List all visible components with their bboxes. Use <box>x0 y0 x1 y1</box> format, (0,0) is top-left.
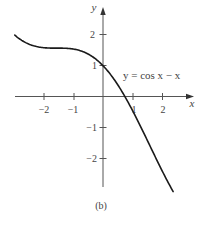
chart-canvas: −2 −1 1 2 2 1 −1 −2 y x y = cos x − x (b… <box>0 0 202 226</box>
equation-label: y = cos x − x <box>123 69 181 81</box>
y-tick-label: 2 <box>90 29 95 40</box>
y-tick-label: 1 <box>92 60 97 71</box>
x-tick-label: −2 <box>39 104 50 115</box>
figure-caption: (b) <box>95 200 107 212</box>
y-tick-label: −2 <box>86 153 97 164</box>
x-tick-label: −1 <box>68 104 79 115</box>
x-tick-label: 2 <box>161 104 166 115</box>
y-axis-label: y <box>91 1 97 13</box>
x-axis-label: x <box>189 97 195 109</box>
y-tick-label: −1 <box>86 122 97 133</box>
y-axis-arrow-icon <box>100 7 105 15</box>
